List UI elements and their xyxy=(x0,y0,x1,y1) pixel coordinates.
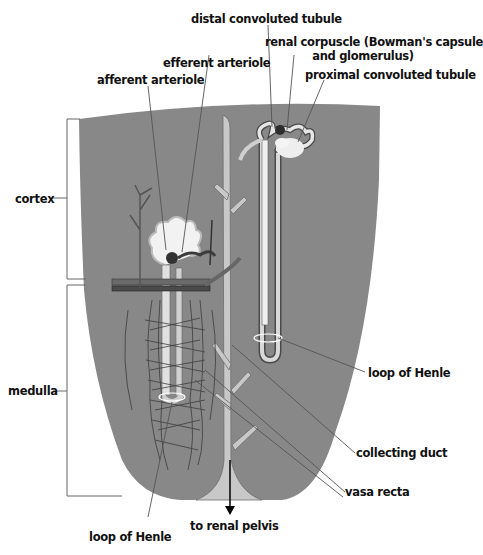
label-renal-corpuscle-line2: and glomerulus) xyxy=(265,49,455,63)
label-afferent-arteriole: afferent arteriole xyxy=(97,73,204,87)
label-cortex: cortex xyxy=(15,192,54,206)
label-loop-of-henle-bottom: loop of Henle xyxy=(89,530,171,544)
label-collecting-duct: collecting duct xyxy=(356,446,447,460)
label-to-renal-pelvis: to renal pelvis xyxy=(190,519,279,533)
label-renal-corpuscle-line1: renal corpuscle (Bowman's capsule xyxy=(265,35,455,49)
label-renal-corpuscle: renal corpuscle (Bowman's capsule and gl… xyxy=(265,35,455,63)
label-loop-of-henle-right: loop of Henle xyxy=(368,366,450,380)
label-efferent-arteriole: efferent arteriole xyxy=(163,56,270,70)
label-medulla: medulla xyxy=(8,384,58,398)
label-vasa-recta: vasa recta xyxy=(345,485,409,499)
label-proximal-convoluted-tubule: proximal convoluted tubule xyxy=(305,68,476,82)
label-distal-convoluted-tubule: distal convoluted tubule xyxy=(191,12,342,26)
